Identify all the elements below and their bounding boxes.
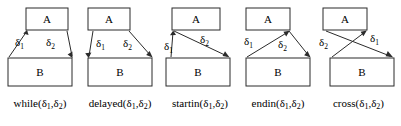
- diagram-cross-svg: A B δ2 δ1: [316, 0, 401, 96]
- panel-startin: A B δ1 δ2 startin(δ1,δ2): [160, 0, 240, 126]
- label-delta2-delayed: δ2: [123, 37, 132, 52]
- caption-close-paren-startin: ): [224, 97, 228, 109]
- arrowhead-delta1-delayed: [85, 53, 91, 58]
- arrow-delta2-while: [67, 31, 72, 56]
- diagram-startin: A B δ1 δ2: [160, 0, 240, 96]
- label-delta2-while: δ2: [46, 36, 55, 51]
- caption-close-paren-endin: ): [301, 97, 305, 109]
- arrow-delta1-cross: [326, 31, 390, 56]
- panel-endin: A B δ1 δ2 endin(δ1,δ2): [238, 0, 318, 126]
- panel-cross: A B δ2 δ1 cross(δ1,δ2): [316, 0, 401, 126]
- arrow-delta1-delayed: [89, 31, 93, 56]
- label-delta1-delayed: δ1: [96, 37, 105, 52]
- label-delta2-startin: δ2: [200, 33, 209, 48]
- caption-close-paren-delayed: ): [148, 97, 152, 109]
- box-a-label-endin: A: [264, 13, 272, 25]
- arrow-delta2-delayed: [129, 31, 151, 56]
- panel-while: A B δ1 δ2 while(δ1,δ2): [0, 0, 80, 126]
- diagram-while-svg: A B δ1 δ2: [0, 0, 80, 96]
- box-a-label-while: A: [43, 13, 51, 25]
- arrowhead-delta1-endin: [283, 31, 289, 37]
- caption-delayed: delayed(δ1,δ2): [80, 96, 160, 114]
- label-delta1-cross: δ1: [370, 32, 379, 47]
- panel-delayed: A B δ1 δ2 delayed(δ1,δ2): [80, 0, 160, 126]
- diagram-while: A B δ1 δ2: [0, 0, 80, 96]
- box-a-label-cross: A: [341, 13, 349, 25]
- arrowhead-delta2-while: [68, 52, 73, 58]
- temporal-relations-figure: A B δ1 δ2 while(δ1,δ2) A: [0, 0, 401, 126]
- label-delta2-cross: δ2: [319, 36, 328, 51]
- caption-while: while(δ1,δ2): [0, 96, 80, 114]
- caption-close-paren-cross: ): [380, 97, 384, 109]
- caption-cross: cross(δ1,δ2): [316, 96, 401, 114]
- diagram-endin: A B δ1 δ2: [238, 0, 318, 96]
- box-b-label-while: B: [36, 66, 43, 78]
- box-b-label-delayed: B: [116, 66, 123, 78]
- caption-startin: startin(δ1,δ2): [160, 96, 240, 114]
- box-b-label-cross: B: [358, 66, 365, 78]
- diagram-startin-svg: A B δ1 δ2: [160, 0, 240, 96]
- caption-name-delayed: delayed: [89, 97, 123, 109]
- arrowhead-delta2-startin: [223, 51, 230, 57]
- caption-endin: endin(δ1,δ2): [238, 96, 318, 114]
- caption-name-endin: endin: [252, 97, 276, 109]
- label-delta1-endin: δ1: [244, 35, 253, 50]
- box-b-label-startin: B: [194, 66, 201, 78]
- label-delta2-endin: δ2: [278, 38, 287, 53]
- caption-name-startin: startin: [172, 97, 200, 109]
- arrow-delta2-endin: [289, 31, 309, 56]
- caption-name-while: while: [14, 97, 38, 109]
- box-b-label-endin: B: [274, 66, 281, 78]
- diagram-endin-svg: A B δ1 δ2: [238, 0, 318, 96]
- diagram-delayed-svg: A B δ1 δ2: [80, 0, 160, 96]
- label-delta1-while: δ1: [15, 36, 24, 51]
- box-a-label-startin: A: [192, 13, 200, 25]
- diagram-delayed: A B δ1 δ2: [80, 0, 160, 96]
- arrowhead-delta2-cross: [361, 31, 367, 37]
- caption-close-paren-while: ): [63, 97, 67, 109]
- box-a-label-delayed: A: [105, 13, 113, 25]
- arrowhead-delta1-cross: [386, 51, 393, 57]
- arrowhead-delta1-while: [23, 30, 28, 35]
- caption-name-cross: cross: [333, 97, 356, 109]
- diagram-cross: A B δ2 δ1: [316, 0, 401, 96]
